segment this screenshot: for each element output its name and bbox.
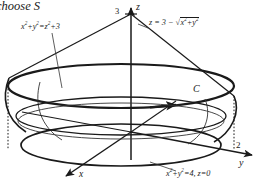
curve-C	[8, 64, 234, 108]
tick-label-z-3: 3	[115, 7, 119, 16]
cone-equation-label: z = 3 − √x2+y2	[149, 19, 199, 27]
base-circle-equation-label: x2+y2=4, z=0	[166, 170, 210, 178]
axis-label-z: z	[136, 2, 140, 12]
tick-label-y-2: 2	[236, 141, 241, 150]
hyperboloid-surface	[5, 78, 236, 144]
curve-label-c: C	[193, 84, 200, 94]
axis-y	[131, 132, 252, 155]
axis-label-y: y	[239, 158, 243, 168]
figure-caption: choose S	[0, 0, 40, 13]
axis-negative-rays	[22, 101, 176, 132]
axis-label-x: x	[79, 170, 83, 180]
hyperboloid-equation-label: x2+y2=z2+3	[21, 23, 60, 31]
axis-z	[125, 8, 137, 160]
